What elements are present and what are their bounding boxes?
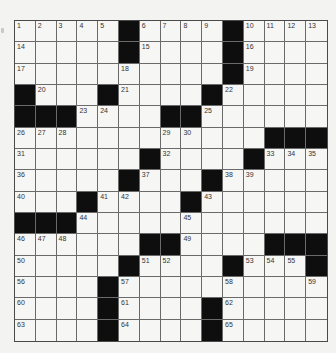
grid-cell[interactable] [181,170,202,191]
grid-cell[interactable] [161,192,182,213]
grid-cell[interactable]: 47 [36,234,57,255]
grid-cell[interactable]: 11 [265,21,286,42]
grid-cell[interactable]: 35 [306,149,327,170]
grid-cell[interactable]: 57 [119,277,140,298]
grid-cell[interactable] [285,42,306,63]
grid-cell[interactable]: 46 [15,234,36,255]
grid-cell[interactable] [98,256,119,277]
grid-cell[interactable] [244,85,265,106]
grid-cell[interactable] [306,85,327,106]
grid-cell[interactable] [77,277,98,298]
grid-cell[interactable]: 53 [244,256,265,277]
grid-cell[interactable] [223,149,244,170]
grid-cell[interactable] [119,213,140,234]
grid-cell[interactable]: 12 [285,21,306,42]
grid-cell[interactable] [181,320,202,341]
grid-cell[interactable]: 60 [15,298,36,319]
grid-cell[interactable] [161,42,182,63]
grid-cell[interactable] [285,213,306,234]
grid-cell[interactable] [98,64,119,85]
grid-cell[interactable] [161,170,182,191]
grid-cell[interactable] [119,234,140,255]
grid-cell[interactable]: 56 [15,277,36,298]
grid-cell[interactable]: 1 [15,21,36,42]
grid-cell[interactable] [57,298,78,319]
grid-cell[interactable]: 59 [306,277,327,298]
grid-cell[interactable] [244,128,265,149]
grid-cell[interactable] [161,85,182,106]
grid-cell[interactable]: 40 [15,192,36,213]
grid-cell[interactable] [36,256,57,277]
grid-cell[interactable] [202,64,223,85]
grid-cell[interactable] [306,106,327,127]
grid-cell[interactable]: 2 [36,21,57,42]
grid-cell[interactable]: 52 [161,256,182,277]
grid-cell[interactable] [119,106,140,127]
grid-cell[interactable]: 14 [15,42,36,63]
grid-cell[interactable] [265,298,286,319]
grid-cell[interactable] [98,234,119,255]
grid-cell[interactable] [140,320,161,341]
grid-cell[interactable] [265,192,286,213]
grid-cell[interactable] [98,128,119,149]
grid-cell[interactable] [181,298,202,319]
grid-cell[interactable]: 32 [161,149,182,170]
grid-cell[interactable] [119,128,140,149]
grid-cell[interactable]: 41 [98,192,119,213]
grid-cell[interactable] [77,298,98,319]
grid-cell[interactable] [306,213,327,234]
grid-cell[interactable] [36,149,57,170]
grid-cell[interactable]: 65 [223,320,244,341]
grid-cell[interactable] [36,170,57,191]
grid-cell[interactable] [181,256,202,277]
grid-cell[interactable] [181,64,202,85]
grid-cell[interactable] [161,64,182,85]
grid-cell[interactable] [36,42,57,63]
grid-cell[interactable] [202,149,223,170]
grid-cell[interactable] [306,320,327,341]
grid-cell[interactable]: 62 [223,298,244,319]
grid-cell[interactable] [36,298,57,319]
grid-cell[interactable] [223,192,244,213]
grid-cell[interactable] [285,106,306,127]
grid-cell[interactable] [181,277,202,298]
grid-cell[interactable] [140,64,161,85]
grid-cell[interactable]: 21 [119,85,140,106]
grid-cell[interactable]: 51 [140,256,161,277]
grid-cell[interactable] [77,320,98,341]
grid-cell[interactable]: 10 [244,21,265,42]
grid-cell[interactable] [285,277,306,298]
grid-cell[interactable]: 29 [161,128,182,149]
grid-cell[interactable] [57,256,78,277]
grid-cell[interactable] [265,320,286,341]
grid-cell[interactable] [265,42,286,63]
grid-cell[interactable]: 50 [15,256,36,277]
grid-cell[interactable] [140,85,161,106]
grid-cell[interactable] [202,277,223,298]
grid-cell[interactable] [77,256,98,277]
grid-cell[interactable]: 39 [244,170,265,191]
grid-cell[interactable]: 17 [15,64,36,85]
grid-cell[interactable]: 64 [119,320,140,341]
grid-cell[interactable] [306,64,327,85]
grid-cell[interactable]: 28 [57,128,78,149]
grid-cell[interactable] [202,234,223,255]
grid-cell[interactable] [223,128,244,149]
grid-cell[interactable] [57,64,78,85]
grid-cell[interactable] [140,106,161,127]
grid-cell[interactable]: 38 [223,170,244,191]
grid-cell[interactable] [98,170,119,191]
grid-cell[interactable] [285,170,306,191]
grid-cell[interactable]: 4 [77,21,98,42]
grid-cell[interactable]: 3 [57,21,78,42]
grid-cell[interactable] [119,149,140,170]
grid-cell[interactable] [202,128,223,149]
grid-cell[interactable] [265,170,286,191]
grid-cell[interactable] [265,277,286,298]
grid-cell[interactable] [57,277,78,298]
grid-cell[interactable] [285,192,306,213]
grid-cell[interactable] [181,42,202,63]
grid-cell[interactable] [57,192,78,213]
grid-cell[interactable]: 30 [181,128,202,149]
grid-cell[interactable] [285,64,306,85]
